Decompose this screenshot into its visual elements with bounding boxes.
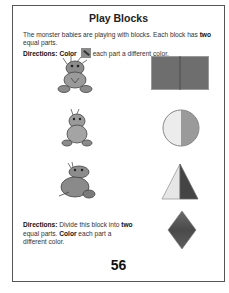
directions-label: Directions: bbox=[23, 50, 57, 57]
page-number: 56 bbox=[13, 257, 224, 273]
circle-block bbox=[162, 109, 200, 147]
directions-divide: Directions: Divide this block into two e… bbox=[23, 221, 133, 247]
monster-baby-1-image bbox=[57, 56, 93, 94]
monster-baby-2-image bbox=[61, 109, 93, 147]
directions-color: Directions: Color each part a different … bbox=[23, 48, 169, 58]
page-title: Play Blocks bbox=[13, 12, 224, 24]
rectangle-block bbox=[151, 56, 209, 90]
worksheet-page: Play Blocks The monster babies are playi… bbox=[12, 5, 225, 282]
triangle-block bbox=[161, 163, 199, 201]
diamond-block bbox=[167, 210, 197, 250]
intro-text: The monster babies are playing with bloc… bbox=[23, 31, 219, 48]
monster-baby-3-image bbox=[55, 162, 97, 200]
